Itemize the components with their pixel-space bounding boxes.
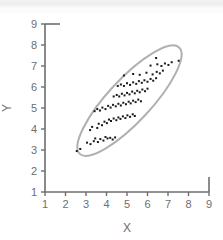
data-point — [129, 116, 131, 118]
x-axis-tick-label: 5 — [124, 198, 130, 210]
data-point — [147, 88, 149, 90]
data-point — [94, 137, 96, 139]
data-point — [107, 105, 109, 107]
data-point — [109, 137, 111, 139]
data-point — [126, 92, 128, 94]
data-point — [106, 122, 108, 124]
data-point — [86, 142, 88, 144]
data-point — [91, 126, 93, 128]
chart-svg: 123456789 123456789 X Y — [0, 0, 223, 240]
data-point — [155, 77, 157, 79]
data-point — [99, 138, 101, 140]
data-point — [131, 91, 133, 93]
x-axis-tick-label: 4 — [103, 198, 109, 210]
y-axis-tick-label: 8 — [31, 39, 37, 51]
data-point — [171, 61, 173, 63]
data-point — [143, 79, 145, 81]
data-point — [123, 85, 125, 87]
x-axis-tick-label: 8 — [185, 198, 191, 210]
scatter-plot-figure: 123456789 123456789 X Y — [0, 0, 223, 240]
data-point — [115, 119, 117, 121]
data-point — [117, 103, 119, 105]
data-point — [152, 80, 154, 82]
y-axis-tick-label: 7 — [31, 60, 37, 72]
data-point — [150, 65, 152, 67]
data-point — [107, 137, 109, 139]
data-point — [167, 64, 169, 66]
data-point — [156, 63, 158, 65]
x-axis-tick-label: 1 — [42, 198, 48, 210]
data-point — [140, 100, 142, 102]
data-point — [115, 105, 117, 107]
data-point — [162, 70, 164, 72]
data-point — [122, 102, 124, 104]
data-point — [114, 136, 116, 138]
data-point — [124, 94, 126, 96]
x-axis-tick-label: 2 — [62, 198, 68, 210]
y-axis-tick-label: 1 — [31, 186, 37, 198]
data-point — [159, 72, 161, 74]
data-point — [135, 83, 137, 85]
x-axis-ticks: 123456789 — [42, 192, 212, 210]
y-axis-tick-label: 4 — [31, 123, 37, 135]
data-point — [104, 136, 106, 138]
y-axis-title: Y — [0, 104, 14, 112]
data-point — [141, 89, 143, 91]
data-point — [103, 121, 105, 123]
data-point — [132, 100, 134, 102]
x-axis-title: X — [123, 221, 131, 235]
x-axis-tick-label: 7 — [165, 198, 171, 210]
y-axis-tick-label: 2 — [31, 165, 37, 177]
x-axis-tick-label: 6 — [144, 198, 150, 210]
data-point — [123, 74, 125, 76]
data-point — [113, 95, 115, 97]
data-point — [156, 71, 158, 73]
data-point — [96, 127, 98, 129]
data-point — [116, 94, 118, 96]
data-point — [126, 82, 128, 84]
data-point — [101, 107, 103, 109]
data-point — [97, 141, 99, 143]
data-point — [139, 91, 141, 93]
data-point — [132, 81, 134, 83]
data-point — [102, 140, 104, 142]
plot-area-background — [45, 24, 209, 192]
data-point — [125, 103, 127, 105]
data-point — [150, 78, 152, 80]
data-point — [112, 139, 114, 141]
data-point — [147, 81, 149, 83]
data-point — [117, 116, 119, 118]
y-axis-ticks: 123456789 — [31, 18, 45, 198]
y-axis-tick-label: 6 — [31, 81, 37, 93]
data-point — [155, 57, 157, 59]
data-point — [134, 115, 136, 117]
data-point — [99, 110, 101, 112]
data-point — [90, 143, 92, 145]
y-axis-tick-label: 3 — [31, 144, 37, 156]
data-point — [134, 92, 136, 94]
data-point — [89, 129, 91, 131]
y-axis-tick-label: 9 — [31, 18, 37, 30]
data-point — [152, 73, 154, 75]
x-axis-tick-label: 9 — [206, 198, 212, 210]
data-point — [119, 118, 121, 120]
data-point — [94, 110, 96, 112]
data-point — [120, 83, 122, 85]
data-point — [160, 65, 162, 67]
data-point — [98, 123, 100, 125]
data-point — [101, 124, 103, 126]
data-point — [130, 102, 132, 104]
data-point — [141, 82, 143, 84]
data-point — [144, 90, 146, 92]
data-point — [76, 150, 78, 152]
data-point — [178, 60, 180, 62]
data-point — [128, 101, 130, 103]
data-point — [164, 62, 166, 64]
y-axis-tick-label: 5 — [31, 102, 37, 114]
data-point — [117, 85, 119, 87]
data-point — [108, 119, 110, 121]
data-point — [132, 113, 134, 115]
data-point — [138, 80, 140, 82]
data-point — [104, 108, 106, 110]
data-point — [96, 108, 98, 110]
